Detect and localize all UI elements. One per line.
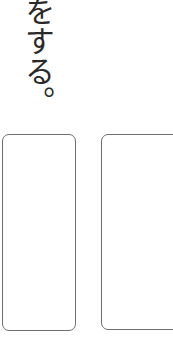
- vertical-text: をする。: [22, 0, 52, 116]
- answer-box-left[interactable]: [2, 134, 76, 331]
- answer-box-right[interactable]: [101, 134, 173, 330]
